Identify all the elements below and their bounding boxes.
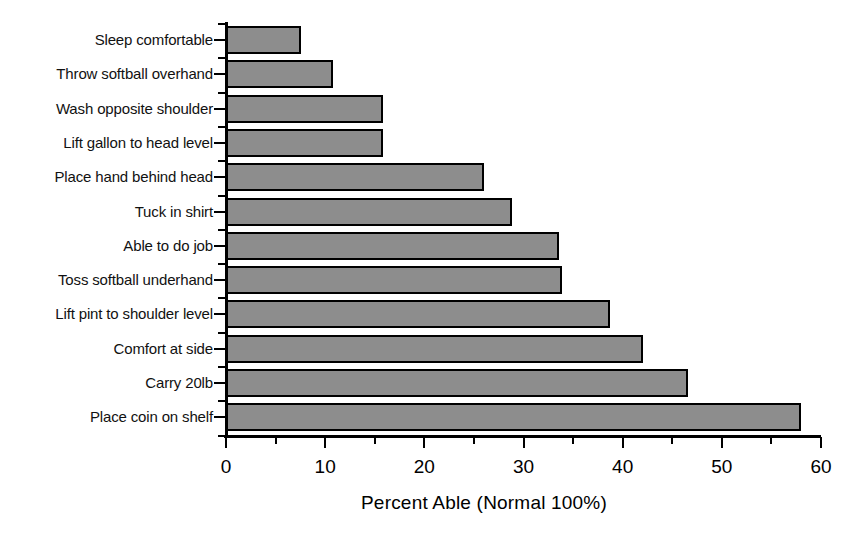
x-axis-tick [622,437,624,448]
bar [226,26,301,54]
category-label: Lift pint to shoulder level [0,306,213,321]
y-axis-tick [214,313,225,315]
y-axis-tick [214,39,225,41]
category-label: Toss softball underhand [0,272,213,287]
y-axis-minor-tick [218,195,225,197]
x-axis-title: Percent Able (Normal 100%) [0,492,856,514]
category-label: Tuck in shirt [0,204,213,219]
y-axis-tick [214,176,225,178]
category-axis-labels: Sleep comfortableThrow softball overhand… [0,0,213,551]
x-axis-minor-tick [374,437,376,444]
y-axis-tick [214,142,225,144]
x-axis-tick-label: 60 [791,457,851,476]
x-axis-tick [820,437,822,448]
y-axis-minor-tick [218,57,225,59]
y-axis-tick [214,245,225,247]
bar [226,369,688,397]
y-axis-minor-tick [218,263,225,265]
bar [226,403,801,431]
y-axis-minor-tick [218,297,225,299]
y-axis-minor-tick [218,23,225,25]
x-axis-tick-label: 30 [494,457,554,476]
y-axis-tick [214,416,225,418]
x-axis-tick [523,437,525,448]
plot-area: 0102030405060 [225,20,845,438]
x-axis-tick [721,437,723,448]
x-axis-minor-tick [572,437,574,444]
bar [226,300,610,328]
bar [226,60,333,88]
x-axis-tick-label: 0 [196,457,256,476]
bar [226,95,383,123]
category-label: Carry 20lb [0,375,213,390]
bar [226,266,562,294]
bar [226,232,559,260]
category-label: Able to do job [0,238,213,253]
category-label: Place coin on shelf [0,409,213,424]
x-axis-minor-tick [275,437,277,444]
x-axis-tick [324,437,326,448]
x-axis-tick-label: 40 [593,457,653,476]
x-axis-tick [225,437,227,448]
x-axis-tick-label: 50 [692,457,752,476]
category-label: Comfort at side [0,341,213,356]
category-label: Place hand behind head [0,169,213,184]
x-axis-minor-tick [671,437,673,444]
y-axis-tick [214,279,225,281]
y-axis-tick [214,382,225,384]
y-axis-tick [214,73,225,75]
x-axis-minor-tick [770,437,772,444]
category-label: Wash opposite shoulder [0,101,213,116]
x-axis-tick-label: 20 [394,457,454,476]
y-axis-minor-tick [218,126,225,128]
bar-chart: Sleep comfortableThrow softball overhand… [0,0,856,551]
y-axis-minor-tick [218,160,225,162]
y-axis-minor-tick [218,366,225,368]
y-axis-minor-tick [218,332,225,334]
bar [226,163,484,191]
y-axis-minor-tick [218,400,225,402]
y-axis-minor-tick [218,229,225,231]
y-axis-minor-tick [218,435,225,437]
bar [226,335,643,363]
y-axis-tick [214,348,225,350]
x-axis-tick [423,437,425,448]
x-axis-minor-tick [473,437,475,444]
bar [226,129,383,157]
category-label: Sleep comfortable [0,32,213,47]
category-label: Throw softball overhand [0,66,213,81]
y-axis-tick [214,211,225,213]
category-label: Lift gallon to head level [0,135,213,150]
x-axis-tick-label: 10 [295,457,355,476]
bar [226,198,512,226]
y-axis-minor-tick [218,92,225,94]
x-axis-title-text: Percent Able (Normal 100%) [361,492,607,514]
y-axis-tick [214,108,225,110]
